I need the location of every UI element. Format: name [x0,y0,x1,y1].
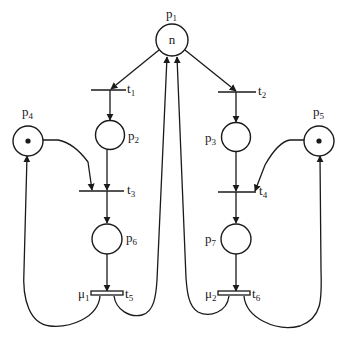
place-p6[interactable] [92,224,122,254]
transition-t5-timed[interactable] [91,291,123,295]
arc-t5-p1 [114,57,167,316]
transition-t6-timed[interactable] [218,291,250,295]
petri-net-diagram: n p1 p2 p3 p4 p5 p6 p7 t1 t2 t3 t4 t5 t6… [0,0,351,339]
arc-p4-t3 [43,140,92,190]
label-p3: p3 [205,130,217,147]
label-mu1: μ1 [78,286,89,303]
label-p2: p2 [128,128,139,145]
label-p1: p1 [166,6,177,23]
label-t1: t1 [127,81,135,98]
arcs [24,50,322,327]
label-t5: t5 [125,286,134,303]
arc-t6-p1 [177,57,229,314]
label-p6: p6 [126,230,138,247]
label-p5: p5 [313,104,325,121]
label-t2: t2 [258,83,266,100]
token-dot-p5 [316,138,321,143]
label-t3: t3 [127,182,136,199]
arc-p1-t1 [111,50,159,89]
token-p1: n [169,32,176,47]
place-p7[interactable] [221,224,251,254]
label-p4: p4 [22,104,34,121]
places [13,24,334,254]
place-p3[interactable] [222,123,251,152]
label-mu2: μ2 [205,286,216,303]
token-dot-p4 [25,138,30,143]
label-t4: t4 [259,183,268,200]
label-p7: p7 [205,231,217,248]
place-p2[interactable] [96,121,125,150]
label-t6: t6 [252,286,261,303]
arc-p1-t2 [185,50,236,91]
